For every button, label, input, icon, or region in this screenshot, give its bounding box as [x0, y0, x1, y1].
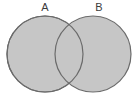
- set-label-a: A: [41, 1, 49, 13]
- set-circle-b: [55, 16, 131, 92]
- venn-diagram-canvas: A B: [0, 0, 139, 98]
- venn-diagram-figure: A B: [0, 0, 139, 98]
- set-label-b: B: [95, 1, 102, 13]
